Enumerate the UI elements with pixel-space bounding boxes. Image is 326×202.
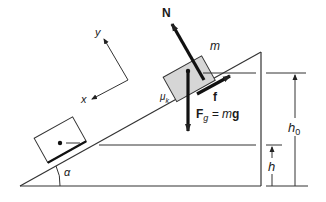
normal-force-label: N — [162, 6, 171, 20]
incline-diagram: α h0 h m μk N Fg = mg f y x — [0, 0, 326, 202]
friction-coefficient-label: μk — [159, 91, 169, 104]
y-axis-arrow — [104, 39, 128, 80]
h-label: h — [268, 159, 275, 174]
angle-arc — [56, 166, 60, 186]
angle-label: α — [64, 166, 71, 178]
y-axis-label: y — [94, 26, 102, 38]
block-final — [34, 117, 86, 163]
block-final-center — [58, 141, 62, 145]
x-axis-label: x — [80, 93, 87, 105]
friction-force-label: f — [213, 90, 218, 104]
x-axis-arrow — [92, 80, 128, 99]
gravity-force-label: Fg = mg — [196, 107, 239, 123]
mass-label: m — [210, 39, 220, 53]
coordinate-axes: y x — [80, 26, 128, 105]
